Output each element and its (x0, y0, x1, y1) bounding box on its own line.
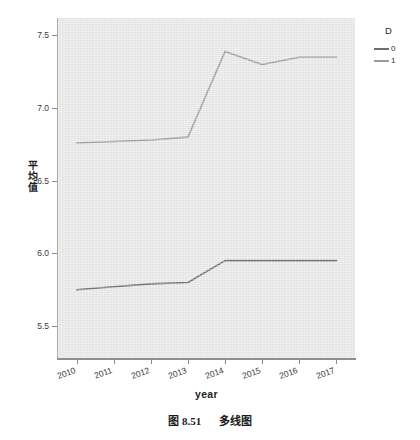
legend-line-swatch (374, 60, 389, 62)
x-tick-mark (225, 360, 226, 364)
x-tick-label: 2014 (204, 366, 225, 380)
x-tick-label: 2012 (130, 366, 151, 380)
y-axis-title-char-3: 值 (26, 182, 40, 193)
x-tick-mark (262, 360, 263, 364)
y-tick-label: 6.0 (37, 249, 49, 258)
figure-caption: 图 8.51 多线图 (0, 412, 420, 428)
figure-multiline-chart: 5.56.06.57.07.5 201020112012201320142015… (0, 0, 420, 440)
x-axis-title: year (58, 388, 355, 400)
plot-area (58, 18, 355, 358)
line-series-0 (77, 261, 337, 290)
y-tick-mark (52, 253, 57, 254)
series-layer (58, 18, 355, 358)
legend-label: 1 (391, 57, 395, 65)
x-tick-mark (299, 360, 300, 364)
y-tick-label: 5.5 (37, 322, 49, 331)
x-tick-label: 2016 (278, 366, 299, 380)
y-tick-mark (52, 108, 57, 109)
x-tick-mark (188, 360, 189, 364)
x-tick-label: 2010 (56, 366, 77, 380)
legend-items: 01 (374, 44, 418, 66)
caption-text: 多线图 (219, 415, 252, 427)
y-tick-label: 7.0 (37, 104, 49, 113)
legend-item[interactable]: 0 (374, 44, 418, 54)
y-tick-label: 7.5 (37, 31, 49, 40)
y-tick-mark (52, 326, 57, 327)
x-tick-mark (336, 360, 337, 364)
legend: D 01 (374, 26, 418, 68)
legend-label: 0 (391, 45, 395, 53)
legend-line-swatch (374, 48, 389, 50)
y-axis-title-char-1: 平 (26, 160, 40, 171)
legend-title: D (385, 26, 418, 36)
y-tick-mark (52, 181, 57, 182)
legend-item[interactable]: 1 (374, 56, 418, 66)
x-tick-mark (151, 360, 152, 364)
x-tick-mark (114, 360, 115, 364)
caption-number: 图 8.51 (168, 415, 201, 427)
x-tick-label: 2013 (167, 366, 188, 380)
x-tick-label: 2017 (316, 366, 337, 380)
x-tick-label: 2015 (241, 366, 262, 380)
y-axis-title: 平 均 值 (26, 160, 40, 194)
y-tick-mark (52, 35, 57, 36)
x-axis-line (57, 358, 356, 360)
y-axis-line (57, 18, 58, 359)
x-tick-label: 2011 (93, 366, 113, 380)
y-axis-title-char-2: 均 (26, 171, 40, 182)
x-tick-mark (77, 360, 78, 364)
line-series-1 (77, 51, 337, 143)
